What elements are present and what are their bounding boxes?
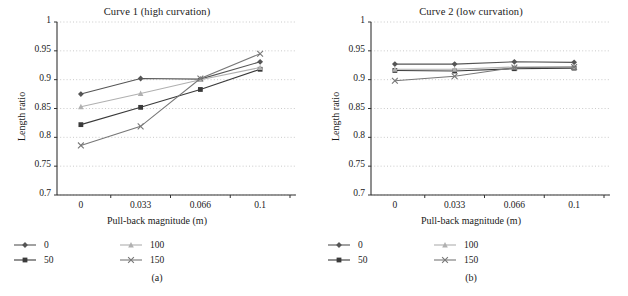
legend-label: 50 xyxy=(44,253,54,267)
diamond-marker-icon xyxy=(12,238,40,252)
triangle-marker-icon xyxy=(118,238,146,252)
x-axis-tick-label: 0.066 xyxy=(489,200,539,210)
x-axis-tick-label: 0 xyxy=(370,200,420,210)
triangle-marker-icon xyxy=(432,238,460,252)
x-axis-tick-label: 0.066 xyxy=(175,200,225,210)
y-axis-tick-label: 1 xyxy=(314,15,365,25)
subcaption-a: (a) xyxy=(0,272,314,283)
legend-label: 100 xyxy=(150,238,164,252)
legend-b: 050100150 xyxy=(314,238,628,272)
y-axis-tick-label: 0.9 xyxy=(0,73,51,83)
x-axis-tick-label: 0 xyxy=(56,200,106,210)
legend-label: 0 xyxy=(358,238,363,252)
y-axis-tick-label: 0.95 xyxy=(314,44,365,54)
panel-a: Curve 1 (high curvation) 0.70.750.80.850… xyxy=(0,0,314,296)
x-axis-tick-label: 0.1 xyxy=(549,200,599,210)
y-axis-tick-label: 0.75 xyxy=(314,159,365,169)
legend-label: 100 xyxy=(464,238,478,252)
x-axis-tick-label: 0.033 xyxy=(116,200,166,210)
y-axis-tick-label: 0.75 xyxy=(0,159,51,169)
y-axis-title: Length ratio xyxy=(16,91,27,140)
legend-label: 150 xyxy=(150,253,164,267)
y-axis-tick-label: 0.7 xyxy=(314,188,365,198)
y-axis-tick-label: 0.95 xyxy=(0,44,51,54)
x-axis-title: Pull-back magnitude (m) xyxy=(0,215,314,226)
cross-marker-icon xyxy=(432,253,460,267)
square-marker-icon xyxy=(326,253,354,267)
cross-marker-icon xyxy=(118,253,146,267)
legend-a: 050100150 xyxy=(0,238,314,272)
y-axis-title: Length ratio xyxy=(330,91,341,140)
x-axis-tick-label: 0.1 xyxy=(235,200,285,210)
y-axis-tick-label: 0.9 xyxy=(314,73,365,83)
diamond-marker-icon xyxy=(326,238,354,252)
legend-label: 150 xyxy=(464,253,478,267)
legend-label: 50 xyxy=(358,253,368,267)
x-axis-tick-label: 0.033 xyxy=(430,200,480,210)
square-marker-icon xyxy=(12,253,40,267)
subcaption-b: (b) xyxy=(314,272,628,283)
y-axis-tick-label: 0.7 xyxy=(0,188,51,198)
panel-b: Curve 2 (low curvation) 0.70.750.80.850.… xyxy=(314,0,628,296)
legend-label: 0 xyxy=(44,238,49,252)
plot-area-a: 0.70.750.80.850.90.95100.0330.0660.1Leng… xyxy=(0,0,314,230)
plot-area-b: 0.70.750.80.850.90.95100.0330.0660.1Leng… xyxy=(314,0,628,230)
y-axis-tick-label: 1 xyxy=(0,15,51,25)
x-axis-title: Pull-back magnitude (m) xyxy=(314,215,628,226)
